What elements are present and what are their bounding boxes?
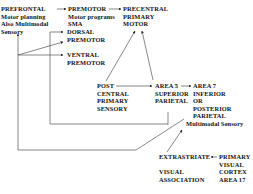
node-label: PREMOTOR [67, 36, 105, 44]
node-label: PARIETAL [193, 112, 232, 120]
node-dorsal-premotor: DORSAL PREMOTOR [67, 28, 105, 43]
node-label: PRIMARY [123, 13, 168, 21]
node-label: AREA 7 [193, 82, 232, 90]
node-label: PRECENTRAL [123, 5, 168, 13]
node-label: Multimodal Sensory [186, 120, 243, 128]
node-label: POST [97, 82, 129, 90]
node-label: EXTRASTRIATE [159, 153, 210, 161]
node-premotor: PREMOTOR Motor programs SMA [68, 5, 115, 28]
node-label: Also Multimodal [1, 20, 48, 28]
arrow-postcentral-precentral [106, 31, 135, 81]
node-area7-multimodal: Multimodal Sensory [186, 120, 243, 128]
node-label: PREFRONTAL [1, 5, 48, 13]
node-label: PARIETAL [155, 97, 189, 105]
arrow-area5-precentral [142, 31, 153, 80]
node-label: SENSORY [97, 105, 129, 113]
arrow-extrastriate-area7 [167, 130, 182, 152]
node-label: PREMOTOR [68, 5, 115, 13]
node-label: MOTOR [123, 20, 168, 28]
node-label: ASSOCIATION [159, 176, 210, 184]
node-label: VENTRAL [67, 51, 105, 59]
node-precentral: PRECENTRAL PRIMARY MOTOR [123, 5, 168, 28]
node-label: DORSAL [67, 28, 105, 36]
node-prefrontal: PREFRONTAL Motor planning Also Multimoda… [1, 5, 48, 35]
node-label [159, 161, 210, 169]
node-label: CORTEX [219, 168, 250, 176]
node-label: Motor planning [1, 13, 48, 21]
node-label: VISUAL [159, 168, 210, 176]
node-area7: AREA 7 INFERIOR OR POSTERIOR PARIETAL [193, 82, 232, 120]
node-label: VISUAL [219, 161, 250, 169]
arrow-junction-dorsal [18, 42, 63, 55]
node-ventral-premotor: VENTRAL PREMOTOR [67, 51, 105, 66]
node-label: Sensory [1, 28, 48, 36]
node-label: INFERIOR [193, 90, 232, 98]
node-label: SMA [68, 20, 115, 28]
node-label: PRIMARY [97, 97, 129, 105]
node-area5: AREA 5 SUPERIOR PARIETAL [155, 82, 189, 105]
node-label: PRIMARY [219, 153, 250, 161]
node-extrastriate: EXTRASTRIATE VISUAL ASSOCIATION [159, 153, 210, 183]
node-label: POSTERIOR [193, 105, 232, 113]
node-label: AREA 5 [155, 82, 189, 90]
node-label: CENTRAL [97, 90, 129, 98]
node-primary-visual: PRIMARY VISUAL CORTEX AREA 17 [219, 153, 250, 183]
node-label: OR [193, 97, 232, 105]
node-label: SUPERIOR [155, 90, 189, 98]
node-label: PREMOTOR [67, 59, 105, 67]
node-label: AREA 17 [219, 176, 250, 184]
node-label: Motor programs [68, 13, 115, 21]
node-postcentral: POST CENTRAL PRIMARY SENSORY [97, 82, 129, 112]
